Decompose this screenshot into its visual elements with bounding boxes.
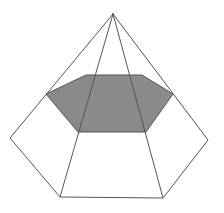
base-edges <box>10 138 208 198</box>
pyramid-diagram <box>0 0 224 213</box>
cross-section-hexagon <box>46 75 173 132</box>
apex-point <box>112 13 114 15</box>
